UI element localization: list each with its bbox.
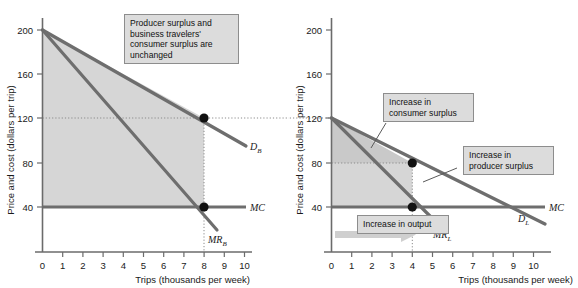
panel-right: 40 80 120 160 200 0 1 2 3 4 5 6 7 8 [289,0,578,288]
y-tick-label: 160 [17,69,33,80]
x-tick-label: 9 [511,260,516,271]
curve-label-mc-right: MC [548,202,564,213]
x-tick-label: 0 [40,260,45,271]
x-tick-label: 7 [470,260,475,271]
note-line: Increase in [389,97,469,108]
note-increase-in-output: Increase in output [357,215,449,234]
x-tick-label: 2 [80,260,85,271]
curve-label-demand-b: DB [249,141,262,155]
x-tick-label: 5 [430,260,435,271]
x-tick-label: 3 [100,260,105,271]
note-increase-producer-surplus: Increase in producer surplus [463,146,554,175]
x-tick-label: 8 [490,260,495,271]
x-tick-label: 4 [410,260,415,271]
x-tick-label: 10 [239,260,250,271]
note-line: Increase in [469,150,549,161]
x-ticks-right: 0 1 2 3 4 5 6 7 8 9 10 [329,252,539,271]
point-mr-equals-mc-right [408,202,417,211]
x-tick-label: 1 [60,260,65,271]
note-line: consumer surplus [389,108,469,119]
y-axis-title-left: Price and cost (dollars per trip) [5,85,16,214]
y-tick-label: 200 [306,25,322,36]
x-tick-label: 1 [349,260,354,271]
y-tick-label: 80 [311,158,322,169]
x-tick-label: 5 [141,260,146,271]
x-tick-label: 7 [181,260,186,271]
x-tick-label: 0 [329,260,334,271]
x-axis-title-right: Trips (thousands per week) [458,274,573,285]
point-price-quantity-left [199,113,208,122]
y-tick-label: 120 [17,113,33,124]
y-tick-label: 200 [17,25,33,36]
x-tick-label: 6 [450,260,455,271]
x-tick-label: 9 [222,260,227,271]
point-price-quantity-right [408,158,417,167]
x-tick-label: 10 [528,260,539,271]
x-axis-title-left: Trips (thousands per week) [135,274,250,285]
figure-root: 40 80 120 160 200 0 1 2 3 4 5 6 7 8 [0,0,578,288]
y-ticks-right: 40 80 120 160 200 [306,25,331,213]
x-tick-label: 4 [121,260,126,271]
x-tick-label: 8 [201,260,206,271]
x-tick-label: 6 [161,260,166,271]
x-ticks-left: 0 1 2 3 4 5 6 7 8 9 10 [40,252,250,271]
point-mr-equals-mc-left [199,202,208,211]
curve-label-mc-left: MC [249,202,265,213]
y-axis-title-right: Price and cost (dollars per trip) [294,85,305,214]
x-tick-label: 2 [369,260,374,271]
x-tick-label: 3 [389,260,394,271]
curve-label-mr-b: MRB [207,234,227,248]
y-ticks-left: 40 80 120 160 200 [17,25,42,213]
y-tick-label: 160 [306,69,322,80]
note-surplus-unchanged: Producer surplus and business travelers'… [124,14,239,64]
y-tick-label: 40 [311,202,322,213]
y-tick-label: 120 [306,113,322,124]
y-tick-label: 80 [22,158,33,169]
note-line: producer surplus [469,161,549,172]
y-tick-label: 40 [22,202,33,213]
note-increase-consumer-surplus: Increase in consumer surplus [383,93,474,122]
